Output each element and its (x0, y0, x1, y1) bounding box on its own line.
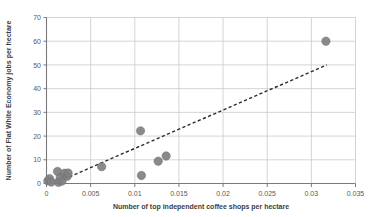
x-axis-tick-label: 0.025 (258, 190, 276, 197)
x-axis-tick-label: 0.01 (128, 190, 142, 197)
x-axis-tick-label: 0.03 (305, 190, 319, 197)
x-axis-tick-label: 0.02 (216, 190, 230, 197)
y-axis-tick-label: 60 (33, 38, 41, 45)
data-point (64, 169, 72, 177)
scatter-chart: 01020304050607000.0050.010.0150.020.0250… (0, 0, 373, 217)
chart-canvas: 01020304050607000.0050.010.0150.020.0250… (0, 0, 373, 217)
y-axis-tick-label: 20 (33, 133, 41, 140)
y-axis-tick-label: 30 (33, 109, 41, 116)
y-axis-tick-label: 70 (33, 14, 41, 21)
trendline (54, 65, 327, 184)
data-point (97, 162, 105, 170)
y-axis-title: Number of Flat White Economy jobs per he… (5, 20, 13, 180)
x-axis-tick-label: 0.015 (170, 190, 188, 197)
x-axis-tick-label: 0.035 (347, 190, 365, 197)
data-point (162, 152, 170, 160)
y-axis-tick-label: 40 (33, 85, 41, 92)
data-point (137, 171, 145, 179)
data-point (322, 37, 330, 45)
data-point (154, 157, 162, 165)
y-axis-tick-label: 10 (33, 156, 41, 163)
x-axis-tick-label: 0.005 (82, 190, 100, 197)
y-axis-tick-label: 50 (33, 62, 41, 69)
x-axis-title: Number of top independent coffee shops p… (113, 203, 289, 211)
x-axis-tick-label: 0 (45, 190, 49, 197)
y-axis-tick-label: 0 (37, 180, 41, 187)
data-point (136, 127, 144, 135)
